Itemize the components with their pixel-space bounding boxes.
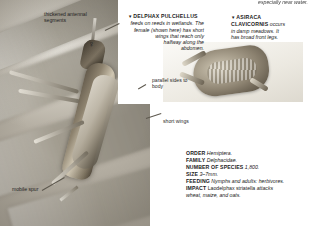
delphax-body-line: female (shown here) has short [128,27,204,33]
fact-row-impact: IMPACT Laodelphax striatella attacks [186,185,310,192]
fact-row-feeding: FEEDING Nymphs and adults: herbivores. [186,178,310,185]
fact-value: Delphacidae. [207,157,237,163]
truncated-caption-line: especially near water. [218,0,308,5]
asiraca-headword-line1: ASIRACA [236,14,261,20]
fact-label: NUMBER OF SPECIES [186,164,243,170]
female-symbol-icon: ♀ [88,40,95,49]
delphax-body-line: abdomen. [128,45,204,51]
fact-value: attacks [255,185,273,191]
fact-value: 3–7mm. [199,171,218,177]
delphax-headword: DELPHAX PULCHELLUS [133,13,197,19]
field-guide-page: especially near water. ▼DELPHAX PULCHELL… [0,0,310,226]
fact-value: wheat, maize, and oats. [186,192,241,198]
asiraca-body-line: occurs [270,21,285,27]
asiraca-caption: ▼ASIRACA CLAVICORNIS occurs in damp mead… [231,14,305,40]
fact-value: Hemiptera. [207,150,232,156]
fact-label: SIZE [186,171,198,177]
callout-mobile-spur: mobile spur [12,186,42,192]
fact-row-size: SIZE 3–7mm. [186,171,310,178]
fact-value: 1,800. [245,164,259,170]
triangle-marker-icon: ▼ [231,15,235,21]
fact-label: FEEDING [186,178,210,184]
fact-row-order: ORDER Hemiptera. [186,150,310,157]
fact-row-family: FAMILY Delphacidae. [186,157,310,164]
asiraca-body-line: has broad front legs. [231,34,305,40]
delphax-body-line: feeds on reeds in wetlands. The [128,20,204,26]
fact-row-impact-continued: wheat, maize, and oats. [186,192,310,199]
fact-value-species: Laodelphax striatella [208,185,256,191]
callout-short-wings: short wings [163,118,199,124]
fact-value: Nymphs and adults: herbivores. [211,178,284,184]
fact-label: FAMILY [186,157,205,163]
triangle-marker-icon: ▼ [128,14,132,20]
fact-box: ORDER Hemiptera. FAMILY Delphacidae. NUM… [186,147,310,202]
fact-label: ORDER [186,150,205,156]
fact-label: IMPACT [186,185,206,191]
asiraca-headword-line2: CLAVICORNIS [231,21,268,27]
fact-row-number-of-species: NUMBER OF SPECIES 1,800. [186,164,310,171]
callout-thickened-antennal-segments: thickened antennal segments [44,11,110,23]
delphax-caption: ▼DELPHAX PULCHELLUS feeds on reeds in we… [128,13,204,52]
callout-parallel-sides-to-body: parallel sides to body [152,77,192,89]
